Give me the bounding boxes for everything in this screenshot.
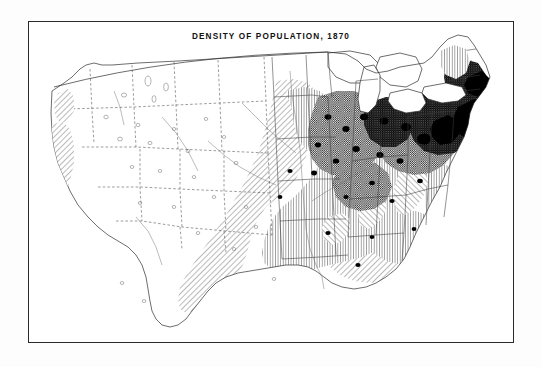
shading-layer bbox=[28, 21, 514, 343]
map-plate: DENSITY OF POPULATION, 1870 bbox=[28, 21, 514, 343]
map-page: DENSITY OF POPULATION, 1870 bbox=[0, 0, 541, 367]
population-density-map bbox=[28, 21, 514, 343]
